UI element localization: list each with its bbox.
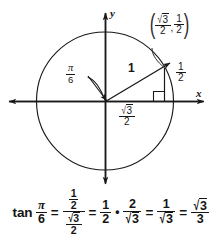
angle-numerator: π <box>66 63 75 75</box>
radical-sign: √ <box>160 213 165 227</box>
step1-lower-fraction: √3 2 <box>66 212 82 236</box>
function-name-tan: tan <box>13 205 33 220</box>
radical-sign: √ <box>194 199 199 213</box>
step2-denominator: 2 <box>100 213 111 226</box>
angle-leader-segment <box>88 76 107 101</box>
horizontal-leg-denominator: 2 <box>119 117 135 127</box>
radicand: 3 <box>126 104 133 116</box>
equation-angle-fraction: π 6 <box>36 199 47 226</box>
vertical-leg-label: 1 2 <box>176 62 186 83</box>
step1-upper-denominator: 2 <box>69 200 79 211</box>
radicand: 3 <box>165 212 173 226</box>
step1-upper-fraction: 1 2 <box>69 188 79 210</box>
point-y-fraction: 1 2 <box>174 14 184 35</box>
step3-denominator: √3 <box>123 212 141 226</box>
step5-numerator: √3 <box>191 198 209 213</box>
right-angle-marker <box>154 92 165 102</box>
radical-sign: √ <box>126 213 131 227</box>
vertical-leg-denominator: 2 <box>176 73 186 83</box>
radical-sign: √ <box>68 213 73 225</box>
point-coordinate-label: ( √3 2 , 1 2 ) <box>148 13 191 36</box>
right-paren: ) <box>184 13 190 35</box>
radicand: 3 <box>132 212 140 226</box>
point-x-numerator: √3 <box>155 13 171 26</box>
step4-denominator: √3 <box>157 212 175 226</box>
terminal-ray <box>106 63 171 102</box>
point-y-denominator: 2 <box>174 25 184 35</box>
angle-fraction: π 6 <box>66 63 75 84</box>
vertical-leg-fraction: 1 2 <box>176 62 186 83</box>
step1-lower: √3 2 <box>63 212 85 236</box>
horizontal-leg-numerator: √3 <box>119 104 135 117</box>
step3-numerator: 2 <box>123 198 141 212</box>
angle-label-pi-over-6: π 6 <box>66 63 75 84</box>
step5-denominator: 3 <box>191 213 209 226</box>
step1-lower-denominator: 2 <box>66 225 82 236</box>
radical-sign: √ <box>158 14 162 25</box>
angle-denominator: 6 <box>66 75 75 85</box>
equation-angle-denominator: 6 <box>36 213 47 226</box>
equals-sign-1: = <box>51 205 59 220</box>
equals-sign-3: = <box>145 205 153 220</box>
horizontal-leg-fraction: √3 2 <box>119 104 135 127</box>
equals-sign-4: = <box>179 205 187 220</box>
radicand: 3 <box>162 13 169 25</box>
step4-numerator: 1 <box>157 198 175 212</box>
point-x-denominator: 2 <box>155 26 171 36</box>
point-x-fraction: √3 2 <box>155 13 171 36</box>
equals-sign-2: = <box>89 205 97 220</box>
left-paren: ( <box>150 13 156 35</box>
radicand: 3 <box>199 198 207 212</box>
multiplication-dot: • <box>115 205 119 219</box>
unit-circle-figure: ( √3 2 , 1 2 ) π 6 1 1 2 √3 2 x y tan <box>0 0 218 236</box>
radicand: 3 <box>73 212 80 224</box>
y-axis-label: y <box>110 8 115 19</box>
equation-step4-fraction: 1 √3 <box>157 198 175 226</box>
horizontal-leg-label: √3 2 <box>119 104 135 127</box>
step1-lower-numerator: √3 <box>66 212 82 225</box>
radical-sign: √ <box>122 105 126 116</box>
radius-length-label: 1 <box>128 62 135 74</box>
step1-upper: 1 2 <box>63 188 85 211</box>
tangent-derivation-equation: tan π 6 = 1 2 √3 2 = 1 2 <box>11 190 211 234</box>
equation-step3-fraction: 2 √3 <box>123 198 141 226</box>
equation-angle-numerator: π <box>36 199 47 213</box>
equation-step5-fraction: √3 3 <box>191 198 209 226</box>
coordinate-comma: , <box>171 23 175 33</box>
equation-step1-complex-fraction: 1 2 √3 2 <box>63 188 85 235</box>
x-axis-label: x <box>196 88 202 99</box>
equation-step2-fraction: 1 2 <box>100 199 111 226</box>
step2-numerator: 1 <box>100 199 111 213</box>
angle-leader-line <box>88 77 105 101</box>
